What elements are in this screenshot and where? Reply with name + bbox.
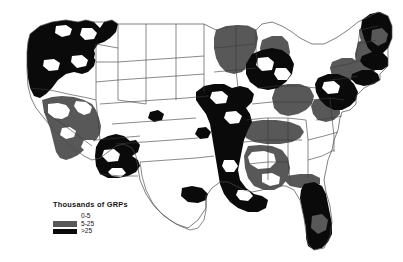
legend-swatch-mid xyxy=(53,221,77,227)
legend-item-low: 0-5 xyxy=(53,213,171,220)
legend-swatch-low xyxy=(53,214,77,220)
map-legend: Thousands of GRPs 0-5 5-25 >25 xyxy=(53,200,171,236)
legend-label-low: 0-5 xyxy=(81,213,91,220)
us-grp-choropleth-figure: Thousands of GRPs 0-5 5-25 >25 xyxy=(0,0,403,262)
legend-item-mid: 5-25 xyxy=(53,221,171,228)
legend-title: Thousands of GRPs xyxy=(53,200,171,209)
legend-label-mid: 5-25 xyxy=(81,221,94,228)
legend-swatch-high xyxy=(53,229,77,235)
legend-label-high: >25 xyxy=(81,228,92,235)
legend-item-high: >25 xyxy=(53,228,171,235)
